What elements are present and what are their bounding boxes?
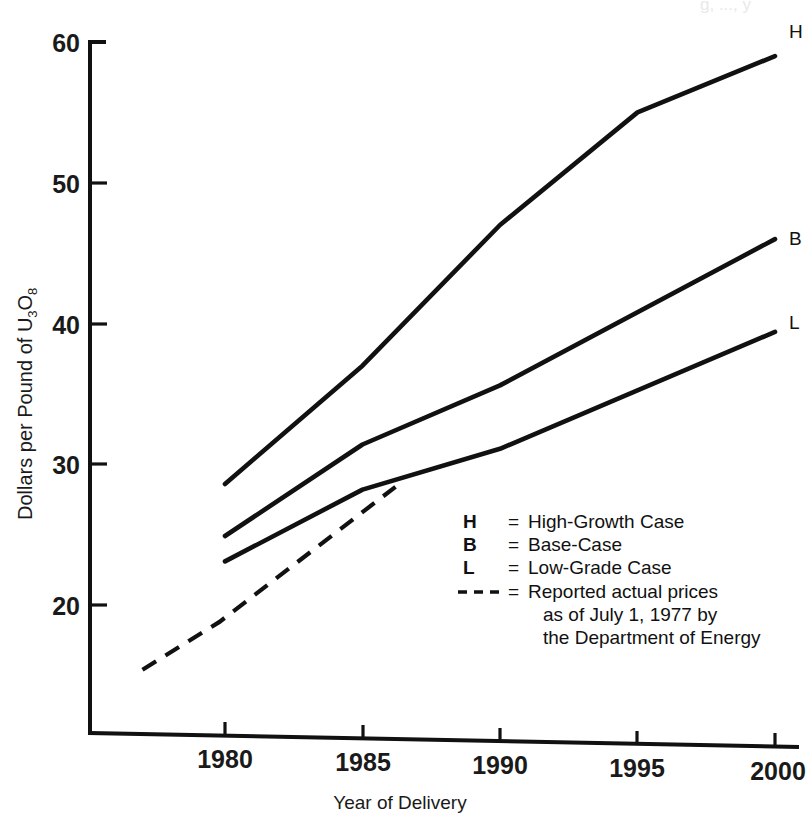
y-axis-tick-labels: 60 50 40 30 20 [52, 29, 80, 620]
series-line-l [225, 332, 775, 562]
x-tick-label-1990: 1990 [472, 751, 528, 779]
x-axis-title: Year of Delivery [333, 792, 467, 813]
y-tick-label-20: 20 [52, 592, 80, 620]
y-axis-title-sub-8: 8 [25, 288, 40, 295]
legend-text-high-growth-case: High-Growth Case [528, 511, 684, 532]
series-end-label-l: L [789, 312, 800, 333]
y-axis-title-sub-3: 3 [25, 310, 40, 317]
y-tick-label-40: 40 [52, 311, 80, 339]
series-line-h [225, 56, 775, 484]
legend-eq-h: = [508, 511, 519, 532]
legend-text-base-case: Base-Case [528, 534, 622, 555]
legend-text-reported-actual-prices: Reported actual prices [528, 581, 718, 602]
series-line-reported-actual-prices [143, 487, 396, 670]
chart-figure: g, ..., y Dollars per Pound of U3O8 60 5… [0, 0, 810, 817]
legend: H = High-Growth Case B = Base-Case L = L… [458, 511, 761, 648]
x-axis-line [90, 733, 797, 747]
legend-key-b: B [463, 534, 477, 555]
svg-text:Dollars per Pound of U3O8: Dollars per Pound of U3O8 [14, 288, 40, 520]
legend-text-low-grade-case: Low-Grade Case [528, 557, 672, 578]
y-axis-title: Dollars per Pound of U3O8 [14, 288, 40, 520]
series-end-label-h: H [789, 21, 803, 42]
series-line-b [225, 239, 775, 536]
data-series-group [143, 56, 776, 670]
x-axis-tick-labels: 1980 1985 1990 1995 2000 [197, 745, 806, 785]
legend-eq-dashed: = [508, 581, 519, 602]
y-axis-title-mid-o: O [14, 295, 36, 311]
legend-key-l: L [463, 557, 475, 578]
y-tick-label-30: 30 [52, 451, 80, 479]
legend-key-h: H [463, 511, 477, 532]
top-cut-text-artifact: g, ..., y [700, 0, 752, 14]
legend-eq-b: = [508, 534, 519, 555]
y-tick-label-50: 50 [52, 170, 80, 198]
legend-text-continuation-1: as of July 1, 1977 by [543, 604, 718, 625]
y-axis-title-prefix: Dollars per Pound of U [14, 318, 36, 520]
x-tick-label-1980: 1980 [197, 745, 253, 773]
y-tick-label-60: 60 [52, 29, 80, 57]
series-end-labels: H B L [789, 21, 803, 333]
x-tick-label-1995: 1995 [609, 754, 665, 782]
legend-text-continuation-2: the Department of Energy [543, 627, 761, 648]
x-tick-label-2000: 2000 [750, 757, 806, 785]
chart-canvas: g, ..., y Dollars per Pound of U3O8 60 5… [0, 0, 810, 817]
series-end-label-b: B [789, 228, 802, 249]
legend-eq-l: = [508, 557, 519, 578]
y-axis-ticks [90, 183, 107, 605]
x-tick-label-1985: 1985 [335, 748, 391, 776]
